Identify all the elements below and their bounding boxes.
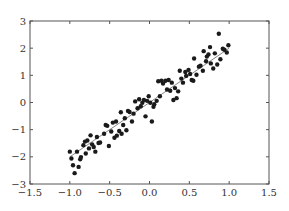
data-point xyxy=(150,119,154,123)
data-point xyxy=(124,128,128,132)
data-point xyxy=(119,132,123,136)
data-point xyxy=(192,56,196,60)
data-point xyxy=(194,73,198,77)
scatter-chart: −1.5−1.0−0.50.00.51.01.5 −3−2−10123 xyxy=(0,0,289,211)
data-point xyxy=(143,114,147,118)
data-point xyxy=(186,68,190,72)
data-point xyxy=(179,76,183,80)
data-point xyxy=(133,99,137,103)
data-point xyxy=(154,99,158,103)
data-point xyxy=(69,156,73,160)
data-point xyxy=(88,133,92,137)
y-tick-label: 1 xyxy=(20,70,26,81)
data-point xyxy=(218,57,222,61)
x-axis-ticks: −1.5−1.0−0.50.00.51.01.5 xyxy=(18,21,277,198)
data-point xyxy=(130,119,134,123)
data-point xyxy=(158,94,162,98)
data-point xyxy=(174,96,178,100)
data-point xyxy=(72,171,76,175)
data-point xyxy=(123,116,127,120)
y-tick-label: −2 xyxy=(11,151,26,162)
data-point xyxy=(204,59,208,63)
data-point xyxy=(109,129,113,133)
data-point xyxy=(148,101,152,105)
data-point xyxy=(87,146,91,150)
data-point xyxy=(98,140,102,144)
data-point xyxy=(215,62,219,66)
data-point xyxy=(137,97,141,101)
data-point xyxy=(68,149,72,153)
x-tick-label: −0.5 xyxy=(98,187,122,198)
data-point xyxy=(226,43,230,47)
data-point xyxy=(201,49,205,53)
data-point xyxy=(84,151,88,155)
data-point xyxy=(184,74,188,78)
y-tick-label: −3 xyxy=(11,179,26,190)
data-point xyxy=(178,69,182,73)
data-point xyxy=(79,155,83,159)
data-point xyxy=(75,149,79,153)
data-point xyxy=(217,32,221,36)
data-point xyxy=(131,111,135,115)
data-point xyxy=(95,135,99,139)
data-point xyxy=(225,50,229,54)
data-point xyxy=(213,51,217,55)
data-point xyxy=(211,66,215,70)
data-point xyxy=(127,110,131,114)
data-point xyxy=(188,72,192,76)
y-tick-label: 2 xyxy=(20,43,26,54)
data-point xyxy=(85,138,89,142)
data-point xyxy=(198,64,202,68)
x-tick-label: 0.0 xyxy=(142,187,158,198)
y-tick-label: 0 xyxy=(20,97,26,108)
data-point xyxy=(209,61,213,65)
data-point xyxy=(115,133,119,137)
data-point xyxy=(191,79,195,83)
data-point xyxy=(92,145,96,149)
x-tick-label: −1.0 xyxy=(58,187,82,198)
data-point xyxy=(173,86,177,90)
data-point xyxy=(168,89,172,93)
x-tick-label: 0.5 xyxy=(181,187,197,198)
data-point xyxy=(181,80,185,84)
data-point xyxy=(176,89,180,93)
data-point xyxy=(206,52,210,56)
data-points xyxy=(68,32,231,176)
data-point xyxy=(119,110,123,114)
data-point xyxy=(208,45,212,49)
data-point xyxy=(105,124,109,128)
data-point xyxy=(102,132,106,136)
data-point xyxy=(170,80,174,84)
data-point xyxy=(107,144,111,148)
data-point xyxy=(71,163,75,167)
x-tick-label: 1.5 xyxy=(261,187,277,198)
y-tick-label: 3 xyxy=(20,16,26,27)
x-tick-label: 1.0 xyxy=(221,187,237,198)
data-point xyxy=(147,94,151,98)
data-point xyxy=(76,165,80,169)
y-tick-label: −1 xyxy=(11,124,26,135)
data-point xyxy=(121,123,125,127)
data-point xyxy=(201,69,205,73)
data-point xyxy=(93,149,97,153)
data-point xyxy=(114,119,118,123)
y-axis-ticks: −3−2−10123 xyxy=(11,16,269,190)
